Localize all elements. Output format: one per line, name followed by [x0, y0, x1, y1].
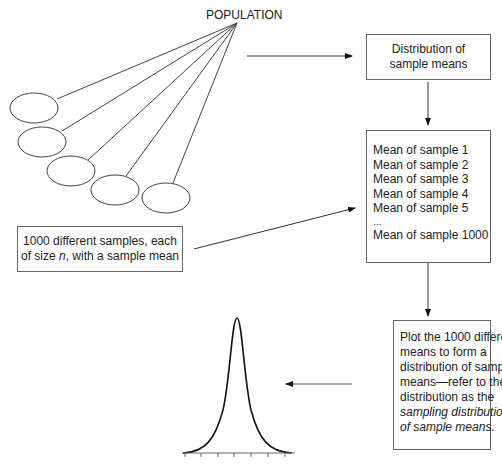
normal-curve: [182, 318, 295, 457]
variable-n: n: [59, 249, 66, 263]
arrow-samples-to-means: [194, 208, 355, 249]
population-fan-lines: [57, 23, 237, 183]
plot-line: distribution of sample: [400, 360, 490, 375]
plot-line: means to form a: [400, 345, 490, 360]
plot-line: means—refer to the: [400, 375, 490, 390]
means-item: Mean of sample 1000: [373, 228, 490, 243]
samples-box: 1000 different samples, each of size n, …: [17, 226, 183, 272]
means-item: Mean of sample 5: [373, 201, 490, 216]
plot-italic-line: sampling distribution: [400, 405, 490, 420]
samples-line-1: 1000 different samples, each: [18, 234, 182, 249]
means-item: Mean of sample 4: [373, 187, 490, 202]
plot-line: Plot the 1000 different: [400, 330, 490, 345]
sample-ellipses: [10, 93, 190, 213]
means-item: Mean of sample 2: [373, 158, 490, 173]
plot-box: Plot the 1000 different means to form a …: [393, 320, 491, 450]
distribution-box: Distribution of sample means: [366, 34, 491, 80]
means-box: Mean of sample 1 Mean of sample 2 Mean o…: [366, 130, 491, 263]
distribution-line-2: sample means: [367, 57, 490, 72]
plot-italic-line: of sample means.: [400, 420, 490, 435]
means-item-ellipsis: …: [373, 216, 490, 228]
means-item: Mean of sample 3: [373, 172, 490, 187]
distribution-line-1: Distribution of: [367, 42, 490, 57]
samples-line-2: of size n, with a sample mean: [18, 249, 182, 264]
plot-line: distribution as the: [400, 390, 490, 405]
population-label: POPULATION: [206, 8, 282, 23]
means-item: Mean of sample 1: [373, 143, 490, 158]
